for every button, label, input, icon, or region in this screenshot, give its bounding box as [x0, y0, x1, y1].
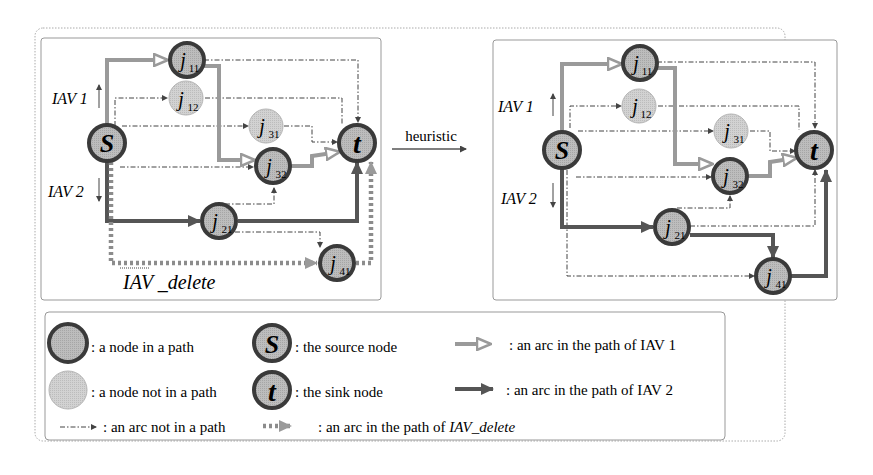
heuristic-label: heuristic	[405, 128, 457, 144]
svg-text:t: t	[353, 128, 362, 159]
node-j31: j 31	[714, 114, 748, 148]
legend-node-in-path-icon	[49, 324, 87, 362]
node-j21: j 21	[655, 210, 689, 244]
svg-text:t: t	[810, 135, 819, 166]
legend-sink-node: : the sink node	[295, 384, 383, 400]
svg-text:21: 21	[222, 223, 233, 235]
legend-sink-symbol: t	[268, 376, 277, 407]
legend-source-symbol: S	[265, 330, 279, 359]
legend-iav1-arc: : an arc in the path of IAV 1	[509, 337, 676, 353]
node-j12: j 12	[622, 89, 656, 123]
legend-not-in-path-arc: : an arc not in a path	[103, 419, 226, 435]
svg-text:32: 32	[733, 178, 744, 190]
node-j21: j 21	[202, 204, 236, 238]
node-t: t	[339, 125, 375, 161]
svg-text:31: 31	[269, 128, 280, 140]
svg-text:S: S	[555, 136, 569, 165]
svg-text:S: S	[100, 129, 114, 158]
legend-iav2-arc: : an arc in the path of IAV 2	[506, 382, 673, 398]
after-panel-border	[493, 40, 837, 300]
node-j31: j 31	[249, 109, 283, 143]
before-panel: IAV 1 IAV 2 IAV _delete S j 11 j 12 j 31…	[41, 38, 381, 300]
label-iav1: IAV 1	[51, 90, 88, 107]
svg-text:41: 41	[776, 278, 787, 290]
legend-source-node: : the source node	[295, 339, 397, 355]
svg-text:11: 11	[642, 65, 653, 77]
label-iav1: IAV 1	[497, 98, 534, 115]
node-j32: j 32	[256, 149, 290, 183]
node-j11: j 11	[623, 46, 657, 80]
after-panel: IAV 1 IAV 2 S j 11 j 12 j 31 j 32 t	[493, 40, 837, 300]
heuristic-transition: heuristic	[392, 128, 466, 149]
svg-text:31: 31	[734, 133, 745, 145]
node-j11: j 11	[170, 43, 204, 77]
node-S: S	[544, 132, 580, 168]
svg-text:12: 12	[188, 101, 199, 113]
node-t: t	[796, 132, 832, 168]
node-j12: j 12	[169, 81, 203, 115]
legend-node-in-path: : a node in a path	[91, 339, 194, 355]
svg-text:21: 21	[675, 229, 686, 241]
node-S: S	[89, 125, 125, 161]
svg-text:12: 12	[641, 108, 652, 120]
node-j41: j 41	[756, 259, 790, 293]
svg-text:41: 41	[340, 265, 351, 277]
node-j41: j 41	[320, 246, 354, 280]
label-iav2: IAV 2	[47, 183, 84, 200]
node-j32: j 32	[713, 159, 747, 193]
legend-node-not-in-path: : a node not in a path	[91, 384, 217, 400]
legend-iav-delete-arc: : an arc in the path of IAV_delete	[318, 419, 515, 435]
svg-text:11: 11	[189, 62, 200, 74]
label-iav2: IAV 2	[500, 190, 537, 207]
svg-text:32: 32	[276, 168, 287, 180]
figure-canvas: IAV 1 IAV 2 IAV _delete S j 11 j 12 j 31…	[0, 0, 873, 475]
legend: : a node in a path S : the source node :…	[45, 312, 725, 440]
legend-node-not-in-path-icon	[49, 371, 87, 409]
label-iav-delete: IAV _delete	[122, 271, 216, 293]
